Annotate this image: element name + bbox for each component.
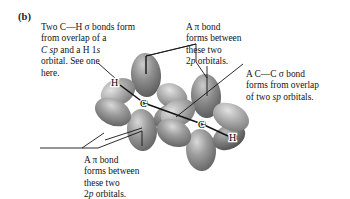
atom-label-c-left: C xyxy=(140,98,147,109)
annotation-ch-sigma-bond: Two C—H σ bonds formfrom overlap of aC s… xyxy=(41,10,153,80)
atom-label-c-right: C xyxy=(198,119,205,130)
annotation-pi-bond-bottom: A π bondforms betweenthese two2p orbital… xyxy=(84,143,179,199)
atom-label-h-right: H xyxy=(229,132,236,143)
annotation-cc-sigma-bond: A C—C σ bondforms from overlapof two sp … xyxy=(246,57,350,103)
orbital-diagram-figure: (b) xyxy=(0,0,350,199)
